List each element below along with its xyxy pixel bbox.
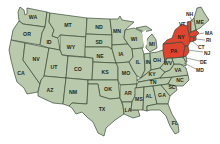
label-nc: NC — [176, 77, 184, 83]
label-nd: ND — [95, 24, 103, 30]
us-map: WA OR CA NV ID MT WY UT AZ CO NM ND SD N… — [0, 0, 220, 144]
label-la: LA — [125, 107, 132, 113]
label-wa: WA — [29, 14, 38, 20]
label-or: OR — [23, 31, 31, 37]
label-mn: MN — [113, 28, 121, 34]
label-nm: NM — [69, 89, 77, 95]
label-id: ID — [46, 39, 51, 45]
label-al: AL — [146, 93, 154, 99]
label-ms: MS — [135, 96, 143, 102]
label-tx: TX — [99, 106, 106, 112]
label-ks: KS — [101, 69, 109, 75]
label-ri: RI — [206, 37, 212, 43]
label-mi: MI — [149, 41, 155, 47]
label-oh: OH — [153, 57, 161, 63]
label-ca: CA — [17, 70, 25, 76]
label-vt: VT — [179, 21, 185, 27]
label-sc: SC — [168, 84, 175, 90]
label-sd: SD — [95, 39, 102, 45]
label-me: ME — [196, 19, 204, 25]
state-ri[interactable] — [194, 36, 196, 41]
state-fl[interactable] — [147, 104, 179, 134]
label-ar: AR — [124, 90, 132, 96]
label-ok: OK — [104, 86, 112, 92]
label-pa: PA — [171, 48, 178, 54]
label-ny: NY — [177, 34, 185, 40]
label-ut: UT — [51, 64, 59, 70]
label-nv: NV — [32, 56, 40, 62]
label-wv: WV — [164, 60, 173, 66]
label-va: VA — [175, 67, 182, 73]
label-ma: MA — [205, 30, 213, 36]
label-de: DE — [200, 59, 208, 65]
label-nj: NJ — [204, 50, 211, 56]
label-in: IN — [145, 59, 150, 65]
label-co: CO — [74, 66, 82, 72]
label-ga: GA — [158, 92, 166, 98]
label-ia: IA — [118, 51, 123, 57]
label-ne: NE — [96, 53, 104, 59]
label-fl: FL — [172, 120, 179, 126]
label-md: MD — [196, 67, 204, 73]
label-az: AZ — [47, 87, 55, 93]
label-wy: WY — [67, 44, 76, 50]
label-nh: NH — [186, 11, 194, 17]
label-mo: MO — [122, 70, 130, 76]
label-ky: KY — [148, 71, 156, 77]
label-tn: TN — [150, 79, 157, 85]
label-wi: WI — [131, 36, 138, 42]
label-mt: MT — [64, 22, 72, 28]
